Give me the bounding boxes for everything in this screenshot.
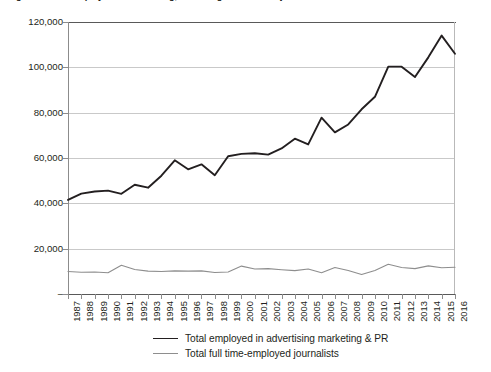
x-axis-tick-label: 2008	[352, 301, 362, 322]
x-axis-tick-label: 1998	[219, 301, 229, 322]
chart-legend: Total employed in advertising marketing …	[153, 331, 483, 361]
x-axis-tick-mark	[428, 294, 429, 299]
x-axis-tick-label: 1997	[205, 301, 215, 322]
x-axis-tick-mark	[415, 294, 416, 299]
x-axis-tick-label: 1989	[99, 301, 109, 322]
x-axis-tick-mark	[375, 294, 376, 299]
x-axis-tick-mark	[68, 294, 69, 299]
x-axis-tick-label: 2016	[459, 301, 469, 322]
x-axis-tick-label: 2007	[339, 301, 349, 322]
x-axis-tick-mark	[388, 294, 389, 299]
legend-item-advertising: Total employed in advertising marketing …	[153, 331, 483, 346]
x-axis-tick-label: 2013	[419, 301, 429, 322]
y-axis-tick-label: 20,000	[3, 244, 63, 254]
x-axis-tick-mark	[148, 294, 149, 299]
x-axis-tick-label: 2011	[392, 301, 402, 321]
x-axis-tick-label: 1991	[125, 301, 135, 322]
chart-figure: Figure 1: Total employed in advertising,…	[0, 0, 491, 372]
x-axis-tick-label: 2015	[446, 301, 456, 322]
x-axis-tick-mark	[228, 294, 229, 299]
x-axis-tick-mark	[308, 294, 309, 299]
x-axis-tick-label: 1994	[165, 301, 175, 322]
x-axis-tick-mark	[268, 294, 269, 299]
x-axis-tick-mark	[442, 294, 443, 299]
x-axis-tick-label: 1995	[179, 301, 189, 322]
x-axis-tick-mark	[402, 294, 403, 299]
y-axis-tick-label: 120,000	[3, 17, 63, 27]
x-axis-tick-mark	[295, 294, 296, 299]
plot-area	[68, 22, 455, 294]
x-axis-tick-mark	[121, 294, 122, 299]
x-axis-tick-label: 2003	[286, 301, 296, 322]
x-axis-tick-label: 2000	[245, 301, 255, 322]
y-axis-tick-label: 60,000	[3, 153, 63, 163]
x-axis-tick-label: 2012	[406, 301, 416, 322]
x-axis-tick-label: 1990	[112, 301, 122, 322]
x-axis-tick-label: 2005	[312, 301, 322, 322]
x-axis-tick-mark	[161, 294, 162, 299]
chart-title: Figure 1: Total employed in advertising,…	[8, 0, 486, 3]
x-axis-tick-mark	[175, 294, 176, 299]
x-axis-tick-mark	[362, 294, 363, 299]
x-axis-tick-mark	[241, 294, 242, 299]
x-axis-tick-mark	[81, 294, 82, 299]
legend-label-journalists: Total full time-employed journalists	[185, 348, 339, 359]
x-axis-tick-mark	[335, 294, 336, 299]
x-axis-tick-mark	[108, 294, 109, 299]
x-axis-tick-label: 2014	[432, 301, 442, 322]
x-axis-tick-mark	[455, 294, 456, 299]
x-axis-tick-label: 2010	[379, 301, 389, 322]
x-axis-tick-mark	[215, 294, 216, 299]
legend-label-advertising: Total employed in advertising marketing …	[185, 333, 388, 344]
x-axis-tick-label: 2006	[326, 301, 336, 322]
x-axis-tick-mark	[135, 294, 136, 299]
y-axis-tick-label: 100,000	[3, 62, 63, 72]
x-axis-tick-label: 1993	[152, 301, 162, 322]
x-axis-tick-label: 2009	[366, 301, 376, 322]
legend-item-journalists: Total full time-employed journalists	[153, 346, 483, 361]
x-axis-tick-label: 1999	[232, 301, 242, 322]
y-axis-tick-label: 80,000	[3, 108, 63, 118]
x-axis-tick-mark	[95, 294, 96, 299]
x-axis-tick-label: 1992	[139, 301, 149, 322]
x-axis-tick-mark	[282, 294, 283, 299]
x-axis-tick-label: 1996	[192, 301, 202, 322]
x-axis-tick-label: 1987	[72, 301, 82, 322]
x-axis-tick-mark	[348, 294, 349, 299]
x-axis-tick-mark	[322, 294, 323, 299]
x-axis-tick-label: 1988	[85, 301, 95, 322]
x-axis-tick-label: 2001	[259, 301, 269, 322]
x-axis-tick-label: 2004	[299, 301, 309, 322]
x-axis-tick-mark	[188, 294, 189, 299]
x-axis-tick-mark	[201, 294, 202, 299]
x-axis-tick-mark	[255, 294, 256, 299]
x-axis-tick-label: 2002	[272, 301, 282, 322]
y-axis-tick-label: 40,000	[3, 198, 63, 208]
